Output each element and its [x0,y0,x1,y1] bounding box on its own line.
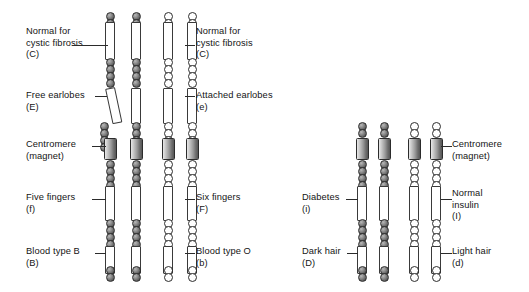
label-free-earlobes-left-line-2: (E) [26,102,85,114]
left-set-chromatid-3-cf-earlobe-beads [164,79,173,88]
label-centromere-left-line-1: Centromere [26,139,76,151]
right-set-chromatid-3-top-telomere-beads [410,129,419,138]
right-set-chromatid-3-insulin-arm [409,186,419,221]
left-set-chromatid-2-cf-earlobe-beads [132,79,141,88]
leader-blood-left [95,253,106,254]
right-set-chromatid-3-bottom-telomere-beads [410,273,419,282]
label-attached-earlobes-right-line-2: (e) [196,102,273,114]
label-five-fingers-left: Five fingers(f) [26,192,75,215]
left-set-chromatid-1-centromere [104,138,117,160]
right-set-chromatid-4-top-telomere-beads [432,129,441,138]
label-diabetes-left: Diabetes(i) [302,192,340,215]
label-diabetes-left-line-1: Diabetes [302,192,340,204]
left-set-chromatid-3-earlobe-arm [163,88,173,124]
right-set-chromatid-2-centromere [378,138,391,160]
label-centromere-right: Centromere(magnet) [452,139,502,162]
label-normal-insulin-line-1: Normal [452,188,483,200]
label-centromere-right-line-2: (magnet) [452,151,502,163]
label-dark-hair-left-line-2: (D) [302,258,341,270]
label-blood-type-o-right: Blood type O(b) [196,246,251,269]
label-free-earlobes-left: Free earlobes(E) [26,90,85,113]
diagram-canvas: Normal forcystic fibrosis(C)Free earlobe… [0,0,529,292]
leader-insulin-right [441,199,452,200]
right-set-chromatid-1-top-telomere-beads [358,129,367,138]
label-centromere-left: Centromere(magnet) [26,139,76,162]
label-blood-type-b-left-line-1: Blood type B [26,246,80,258]
label-cystic-fibrosis-left-line-2: cystic fibrosis [26,38,83,50]
right-set-chromatid-2-bottom-telomere-beads [380,273,389,282]
label-attached-earlobes-right-line-1: Attached earlobes [196,90,273,102]
left-set-chromatid-1-earlobe-arm [105,87,122,124]
label-cystic-fibrosis-right-line-3: (C) [196,49,253,61]
right-set-chromatid-1-centromere [356,138,369,160]
left-set-chromatid-3-cf-arm [163,22,173,60]
label-six-fingers-right: Six fingers(F) [196,192,241,215]
label-cystic-fibrosis-right-line-1: Normal for [196,26,253,38]
label-diabetes-left-line-2: (i) [302,204,340,216]
label-blood-type-o-right-line-2: (b) [196,258,251,270]
leader-diabetes [346,199,358,200]
label-light-hair: Light hair(d) [452,246,491,269]
left-set-chromatid-4-centromere [186,138,199,160]
leader-cf-left [72,45,108,46]
label-six-fingers-right-line-1: Six fingers [196,192,241,204]
right-set-chromatid-1-insulin-arm [357,186,367,221]
left-set-chromatid-1-bottom-telomere-beads [106,273,115,282]
label-attached-earlobes-right: Attached earlobes(e) [196,90,273,113]
right-set-chromatid-4-bottom-telomere-beads [432,273,441,282]
leader-light-hair [441,253,452,254]
label-cystic-fibrosis-left: Normal forcystic fibrosis(C) [26,26,83,61]
right-set-chromatid-2-insulin-arm [379,186,389,221]
label-dark-hair-left-line-1: Dark hair [302,246,341,258]
label-cystic-fibrosis-right-line-2: cystic fibrosis [196,38,253,50]
leader-fingers-right [185,199,195,200]
leader-cf-right [185,45,195,46]
left-set-chromatid-1-fingers-arm [105,186,115,221]
label-cystic-fibrosis-right: Normal forcystic fibrosis(C) [196,26,253,61]
leader-centromere-left [92,146,106,147]
label-normal-insulin-line-3: (I) [452,211,483,223]
label-light-hair-line-1: Light hair [452,246,491,258]
label-blood-type-o-right-line-1: Blood type O [196,246,251,258]
left-set-chromatid-4-cf-earlobe-beads [188,79,197,88]
label-blood-type-b-left-line-2: (B) [26,258,80,270]
label-six-fingers-right-line-2: (F) [196,204,241,216]
left-set-chromatid-2-cf-arm [131,22,141,60]
right-set-chromatid-4-insulin-arm [431,186,441,221]
left-set-chromatid-3-fingers-arm [163,186,173,221]
left-set-chromatid-2-bottom-telomere-beads [132,273,141,282]
right-set-chromatid-3-centromere [408,138,421,160]
leader-dark-hair [347,253,358,254]
right-set-chromatid-1-bottom-telomere-beads [358,273,367,282]
leader-centromere-right [441,146,452,147]
label-light-hair-line-2: (d) [452,258,491,270]
leader-earlobes-left [95,96,107,97]
left-set-chromatid-3-centromere [162,138,175,160]
left-set-chromatid-2-centromere [130,138,143,160]
label-cystic-fibrosis-left-line-3: (C) [26,49,83,61]
label-centromere-right-line-1: Centromere [452,139,502,151]
label-five-fingers-left-line-2: (f) [26,204,75,216]
right-set-chromatid-4-centromere [430,138,443,160]
label-normal-insulin-line-2: insulin [452,200,483,212]
leader-fingers-left [92,199,106,200]
right-set-chromatid-2-top-telomere-beads [380,129,389,138]
label-cystic-fibrosis-left-line-1: Normal for [26,26,83,38]
left-set-chromatid-2-fingers-arm [131,186,141,221]
left-set-chromatid-4-bottom-telomere-beads [188,273,197,282]
label-free-earlobes-left-line-1: Free earlobes [26,90,85,102]
label-centromere-left-line-2: (magnet) [26,151,76,163]
left-set-chromatid-1-cf-arm [105,22,115,60]
label-dark-hair-left: Dark hair(D) [302,246,341,269]
label-blood-type-b-left: Blood type B(B) [26,246,80,269]
leader-blood-right [185,253,195,254]
left-set-chromatid-2-earlobe-arm [131,88,141,124]
leader-earlobes-right [185,96,195,97]
label-normal-insulin: Normalinsulin(I) [452,188,483,223]
label-five-fingers-left-line-1: Five fingers [26,192,75,204]
left-set-chromatid-3-bottom-telomere-beads [164,273,173,282]
